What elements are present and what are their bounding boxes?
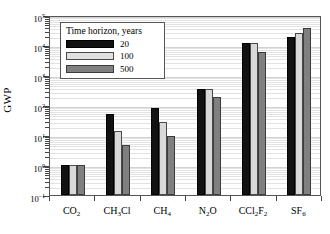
y-axis-tick-label: 105 <box>33 11 45 24</box>
y-axis-tick-label: 102 <box>33 101 45 114</box>
bar <box>242 43 250 195</box>
bar <box>167 136 175 195</box>
y-axis-tick-label: 10–1 <box>30 191 45 204</box>
x-axis-tick <box>94 196 95 201</box>
x-axis-tick <box>230 196 231 201</box>
bar-group <box>186 17 231 195</box>
x-axis-tick <box>321 196 322 201</box>
x-axis-tick-label: CCl2F2 <box>230 205 275 218</box>
bar <box>303 28 311 195</box>
bar <box>151 108 159 195</box>
bar-group <box>277 17 321 195</box>
bar <box>287 37 295 195</box>
bar <box>197 89 205 195</box>
gwp-bar-chart-figure: GWP 10510410310210110010–1 CO2CH3ClCH4N2… <box>0 0 330 234</box>
y-axis-title: GWP <box>1 87 13 113</box>
bar <box>295 33 303 195</box>
bar <box>213 97 221 195</box>
x-axis-tick <box>276 196 277 201</box>
legend-item-label: 100 <box>120 51 134 61</box>
bar <box>114 131 122 195</box>
bar <box>250 43 258 195</box>
bar <box>159 122 167 195</box>
y-axis-tick-label: 103 <box>33 71 45 84</box>
legend-swatch <box>66 52 114 60</box>
legend: Time horizon, years 20100500 <box>60 22 165 79</box>
legend-item: 500 <box>66 64 159 74</box>
x-axis-tick <box>185 196 186 201</box>
legend-item: 100 <box>66 51 159 61</box>
bar-group <box>231 17 276 195</box>
bar <box>106 114 114 195</box>
y-axis-tick-label: 104 <box>33 41 45 54</box>
bar <box>122 145 130 195</box>
legend-entries: 20100500 <box>66 39 159 74</box>
x-axis-tick-label: SF6 <box>276 205 321 218</box>
x-axis-tick-label: CH4 <box>140 205 185 218</box>
bar <box>205 89 213 195</box>
legend-item: 20 <box>66 39 159 49</box>
legend-item-label: 500 <box>120 64 134 74</box>
x-axis-tick-label: N2O <box>185 205 230 218</box>
legend-swatch <box>66 40 114 48</box>
x-axis-tick-label: CH3Cl <box>94 205 139 218</box>
bar <box>69 165 77 195</box>
legend-item-label: 20 <box>120 39 129 49</box>
legend-swatch <box>66 65 114 73</box>
bar <box>77 165 85 195</box>
y-axis-tick-label: 101 <box>33 131 45 144</box>
x-axis-tick-label: CO2 <box>49 205 94 218</box>
legend-title: Time horizon, years <box>66 26 159 36</box>
bar <box>258 52 266 195</box>
x-axis-tick <box>49 196 50 201</box>
y-axis-tick-label: 100 <box>33 161 45 174</box>
x-axis-tick <box>140 196 141 201</box>
bar <box>61 165 69 195</box>
